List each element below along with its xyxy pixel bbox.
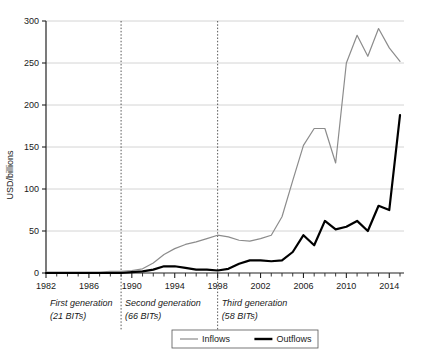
y-tick-label: 150	[24, 142, 39, 152]
y-axis-title: USD/billions	[5, 150, 15, 200]
x-tick-label: 2014	[379, 281, 399, 291]
y-tick-label: 300	[24, 16, 39, 26]
x-tick-label: 1990	[122, 281, 142, 291]
legend-label-outflows: Outflows	[276, 334, 312, 344]
first-generation-label-line1: First generation	[50, 298, 113, 308]
x-tick-label: 1986	[79, 281, 99, 291]
series-line-outflows	[46, 115, 400, 273]
third-generation-label-line1: Third generation	[222, 298, 288, 308]
y-tick-label: 0	[34, 268, 39, 278]
x-tick-label: 1998	[208, 281, 228, 291]
y-tick-label: 250	[24, 58, 39, 68]
y-axis-tick-labels: 050100150200250300	[24, 16, 46, 278]
line-chart: 050100150200250300 198219861990199419982…	[0, 0, 431, 355]
chart-container: 050100150200250300 198219861990199419982…	[0, 0, 431, 355]
y-tick-label: 50	[29, 226, 39, 236]
generation-annotations: First generation(21 BITs)Second generati…	[50, 298, 287, 321]
third-generation-label-line2: (58 BITs)	[222, 311, 258, 321]
x-tick-label: 1994	[165, 281, 185, 291]
x-tick-label: 2006	[293, 281, 313, 291]
x-tick-label: 2002	[251, 281, 271, 291]
series-line-inflows	[46, 29, 400, 273]
y-tick-label: 100	[24, 184, 39, 194]
second-generation-label-line2: (66 BITs)	[125, 311, 161, 321]
x-axis-tick-labels: 198219861990199419982002200620102014	[36, 281, 399, 291]
first-generation-label-line2: (21 BITs)	[50, 311, 86, 321]
x-tick-label: 1982	[36, 281, 56, 291]
legend-box: InflowsOutflows	[172, 330, 318, 348]
second-generation-label-line1: Second generation	[125, 298, 201, 308]
x-tick-label: 2010	[336, 281, 356, 291]
legend-label-inflows: Inflows	[202, 334, 231, 344]
series-lines	[46, 29, 400, 273]
y-tick-label: 200	[24, 100, 39, 110]
